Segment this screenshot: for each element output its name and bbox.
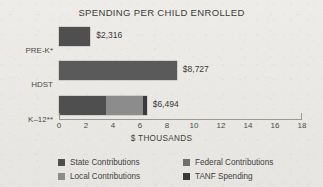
bar-pre-k[interactable] (59, 27, 90, 46)
bar-segment (59, 96, 106, 115)
legend-item[interactable]: State Contributions (58, 158, 183, 167)
x-axis-ticks: 024681012141618 (59, 121, 302, 133)
chart-legend: State ContributionsFederal Contributions… (58, 155, 308, 183)
bar-k-12[interactable] (59, 96, 147, 115)
x-tick-label: 12 (217, 121, 226, 130)
x-tick-label: 6 (138, 121, 142, 130)
legend-label: Local Contributions (70, 172, 140, 181)
x-tick-label: 4 (111, 121, 115, 130)
legend-swatch-icon (183, 173, 190, 180)
bar-value-label: $8,727 (183, 64, 209, 74)
x-axis-line (59, 119, 302, 120)
bar-segment (143, 96, 147, 115)
x-tick-label: 0 (57, 121, 61, 130)
x-tick-label: 16 (271, 121, 280, 130)
legend-item[interactable]: TANF Spending (183, 172, 308, 181)
legend-label: TANF Spending (195, 172, 253, 181)
bar-segment (106, 96, 143, 115)
x-tick-label: 14 (244, 121, 253, 130)
bar-value-label: $6,494 (153, 99, 179, 109)
legend-swatch-icon (183, 159, 190, 166)
bar-row: $2,316PRE-K* (59, 27, 302, 46)
category-label: K–12** (28, 115, 53, 124)
legend-swatch-icon (58, 173, 65, 180)
chart-container: SPENDING PER CHILD ENROLLED $2,316PRE-K*… (0, 0, 323, 187)
x-tick-label: 8 (165, 121, 169, 130)
legend-item[interactable]: Local Contributions (58, 172, 183, 181)
bar-value-label: $2,316 (96, 30, 122, 40)
bar-row: $8,727HDST (59, 61, 302, 80)
x-axis-end-cap (301, 113, 302, 120)
bar-segment (59, 61, 177, 80)
chart-title: SPENDING PER CHILD ENROLLED (0, 7, 323, 18)
plot-area: $2,316PRE-K*$8,727HDST$6,494K–12** (59, 22, 302, 119)
x-tick-label: 18 (298, 121, 307, 130)
x-axis-title: $ THOUSANDS (0, 134, 323, 143)
x-axis-start-cap (59, 113, 60, 120)
category-label: HDST (31, 80, 53, 89)
legend-item[interactable]: Federal Contributions (183, 158, 308, 167)
legend-label: State Contributions (70, 158, 140, 167)
bar-row: $6,494K–12** (59, 96, 302, 115)
category-label: PRE-K* (25, 46, 53, 55)
legend-swatch-icon (58, 159, 65, 166)
bar-segment (59, 27, 90, 46)
bar-hdst[interactable] (59, 61, 177, 80)
x-tick-label: 10 (190, 121, 199, 130)
legend-label: Federal Contributions (195, 158, 273, 167)
x-tick-label: 2 (84, 121, 88, 130)
